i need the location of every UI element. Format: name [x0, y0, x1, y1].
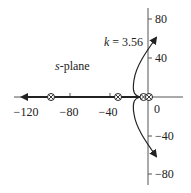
pole-zero-marker-neg100 — [48, 94, 55, 101]
s-plane-label: s-plane — [55, 59, 90, 73]
locus-branch-lower — [133, 97, 156, 156]
y-tick-label-40: 40 — [155, 51, 167, 65]
y-tick-label-80: 80 — [155, 12, 167, 26]
x-tick-label-neg80: −80 — [60, 105, 79, 119]
root-locus-plot: −120 −80 −40 0 80 40 −40 −80 s-plane k =… — [0, 0, 191, 193]
gain-annotation: k = 3.56 — [104, 35, 143, 49]
x-tick-label-zero: 0 — [154, 102, 160, 116]
y-tick-label-neg80: −80 — [155, 167, 174, 181]
pole-zero-marker-neg30 — [115, 94, 122, 101]
x-tick-label-neg40: −40 — [99, 105, 118, 119]
x-tick-label-neg120: −120 — [14, 105, 39, 119]
pole-zero-marker-origin — [146, 94, 153, 101]
y-tick-label-neg40: −40 — [155, 129, 174, 143]
